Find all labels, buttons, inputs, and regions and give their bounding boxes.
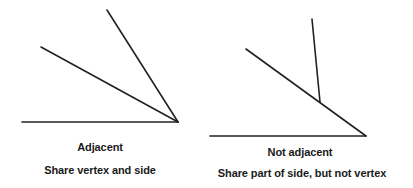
right-figure-title: Not adjacent [268,146,333,158]
right-offset-ray [312,19,320,102]
left-upper-ray [107,10,178,122]
left-middle-ray [41,47,178,122]
left-figure-caption: Share vertex and side [44,164,156,176]
right-diagonal-ray [246,49,366,136]
left-figure-title: Adjacent [77,141,123,153]
right-figure-caption: Share part of side, but not vertex [218,167,386,179]
angle-diagrams [0,0,413,188]
right-figure-non-adjacent-angles [210,19,366,136]
left-figure-adjacent-angles [22,10,178,122]
